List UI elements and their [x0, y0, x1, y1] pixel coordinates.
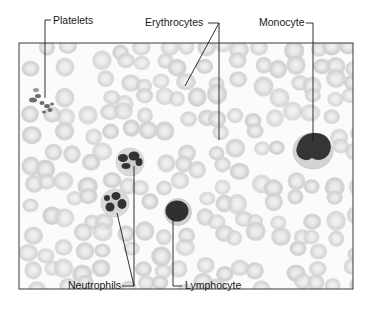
label-neutrophils: Neutrophils	[68, 279, 121, 291]
blood-smear-figure: Platelets Erythrocytes Monocyte Neutroph…	[0, 0, 370, 335]
neutrophil-lower	[101, 189, 129, 217]
neutrophil-upper	[116, 148, 144, 176]
smear-area	[18, 37, 368, 300]
label-monocyte: Monocyte	[259, 16, 305, 28]
lymphocyte-cell	[165, 199, 192, 226]
label-platelets: Platelets	[53, 14, 93, 26]
label-erythrocytes: Erythrocytes	[145, 16, 203, 28]
label-lymphocyte: Lymphocyte	[185, 279, 241, 291]
